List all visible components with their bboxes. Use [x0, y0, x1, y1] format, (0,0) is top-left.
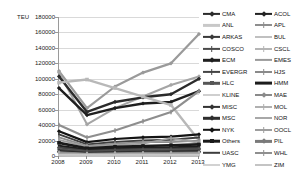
legend-item-mae[interactable]: MAE	[255, 89, 305, 101]
legend-swatch-icon	[203, 160, 220, 169]
legend-label: HJS	[274, 68, 285, 76]
legend-label: ARKAS	[222, 33, 242, 41]
series-marker	[58, 123, 59, 128]
x-tick-label: 2008	[51, 159, 64, 165]
x-tick-label: 2009	[79, 159, 92, 165]
legend-item-bul[interactable]: BUL	[255, 31, 305, 43]
legend-item-hmm[interactable]: HMM	[255, 78, 305, 90]
legend-item-ymg[interactable]: YMG	[203, 159, 253, 171]
legend-item-zim[interactable]: ZIM	[255, 159, 305, 171]
legend-item-cscl[interactable]: CSCL	[255, 43, 305, 55]
legend-label: MISC	[222, 103, 237, 111]
legend-swatch-icon	[203, 148, 220, 157]
legend-item-uasc[interactable]: UASC	[203, 147, 253, 159]
legend-swatch-icon	[203, 21, 220, 30]
x-tick-mark	[114, 156, 115, 159]
legend-item-pil[interactable]: PIL	[255, 136, 305, 148]
legend-item-mol[interactable]: MOL	[255, 101, 305, 113]
legend-label: MOL	[274, 103, 287, 111]
legend-label: CMA	[222, 10, 235, 18]
series-line	[59, 34, 199, 108]
legend-label: ECM	[222, 56, 235, 64]
legend-item-arkas[interactable]: ARKAS	[203, 31, 253, 43]
legend-label: MAE	[274, 91, 287, 99]
legend-item-apl[interactable]: APL	[255, 20, 305, 32]
y-tick-label: 120000	[35, 60, 55, 66]
legend-swatch-icon	[255, 21, 272, 30]
y-tick-label: 140000	[35, 45, 55, 51]
legend-item-ecm[interactable]: ECM	[203, 54, 253, 66]
legend-item-emes[interactable]: EMES	[255, 54, 305, 66]
legend-item-cma[interactable]: CMA	[203, 8, 253, 20]
legend-label: EMES	[274, 56, 291, 64]
legend-item-acol[interactable]: ACOL	[255, 8, 305, 20]
legend-label: ANL	[222, 21, 234, 29]
series-lines	[59, 17, 199, 156]
x-tick-label: 2010	[107, 159, 120, 165]
series-marker	[198, 89, 199, 94]
legend-item-anl[interactable]: ANL	[203, 20, 253, 32]
legend-item-misc[interactable]: MISC	[203, 101, 253, 113]
legend-label: APL	[274, 21, 285, 29]
legend-label: NOR	[274, 114, 287, 122]
legend-label: YMG	[222, 161, 236, 169]
y-tick-label: 160000	[35, 29, 55, 35]
legend-swatch-icon	[255, 44, 272, 53]
x-tick-label: 2012	[163, 159, 176, 165]
legend-label: ZIM	[274, 161, 284, 169]
legend-label: OOCL	[274, 126, 291, 134]
legend-swatch-icon	[255, 79, 272, 88]
x-tick-mark	[198, 156, 199, 159]
legend-label: COSCO	[222, 45, 244, 53]
chart-root: TEU 180000160000140000120000100000800006…	[0, 0, 308, 179]
x-tick-mark	[170, 156, 171, 159]
series-marker	[141, 101, 145, 105]
legend-item-cosco[interactable]: COSCO	[203, 43, 253, 55]
legend-label: UASC	[222, 149, 239, 157]
x-tick-label: 2011	[136, 159, 149, 165]
series-marker	[57, 141, 61, 145]
x-tick-mark	[58, 156, 59, 159]
legend-item-nor[interactable]: NOR	[255, 112, 305, 124]
y-tick-label: 100000	[35, 76, 55, 82]
series-marker	[142, 119, 143, 124]
legend-item-msc[interactable]: MSC	[203, 112, 253, 124]
series-marker	[169, 103, 173, 107]
series-marker	[85, 78, 89, 82]
legend-swatch-icon	[255, 114, 272, 123]
legend-swatch-icon	[203, 56, 220, 65]
legend-label: HLC	[222, 79, 234, 87]
legend-column-1: CMAANLARKASCOSCOECMEVERGRHLCKLINEMISCMSC…	[203, 8, 253, 170]
legend-item-whl[interactable]: WHL	[255, 147, 305, 159]
legend-label: ACOL	[274, 10, 290, 18]
legend-swatch-icon	[203, 137, 220, 146]
legend-item-others[interactable]: Others	[203, 136, 253, 148]
legend-item-oocl[interactable]: OOCL	[255, 124, 305, 136]
plot-area	[58, 17, 199, 157]
series-marker	[141, 95, 145, 99]
legend-item-hjs[interactable]: HJS	[255, 66, 305, 78]
legend-column-2: ACOLAPLBULCSCLEMESHJSHMMMAEMOLNOROOCLPIL…	[255, 8, 305, 170]
legend-item-evergr[interactable]: EVERGR	[203, 66, 253, 78]
legend-label: PIL	[274, 137, 283, 145]
legend-item-kline[interactable]: KLINE	[203, 89, 253, 101]
series-marker	[57, 81, 61, 85]
legend-swatch-icon	[255, 102, 272, 111]
legend-label: BUL	[274, 33, 286, 41]
legend-swatch-icon	[203, 32, 220, 41]
y-tick-label: 80000	[38, 91, 55, 97]
legend-swatch-icon	[203, 125, 220, 134]
legend-label: WHL	[274, 149, 287, 157]
legend-swatch-icon	[203, 102, 220, 111]
y-tick-label: 40000	[38, 122, 55, 128]
chart-legend: CMAANLARKASCOSCOECMEVERGRHLCKLINEMISCMSC…	[203, 8, 308, 174]
y-tick-label: 180000	[35, 14, 55, 20]
legend-label: HMM	[274, 79, 288, 87]
legend-swatch-icon	[255, 90, 272, 99]
x-tick-mark	[86, 156, 87, 159]
series-marker	[86, 135, 87, 140]
legend-item-nyk[interactable]: NYK	[203, 124, 253, 136]
y-axis-tick-labels: 1800001600001400001200001000008000060000…	[0, 17, 55, 156]
series-marker	[114, 128, 115, 133]
legend-item-hlc[interactable]: HLC	[203, 78, 253, 90]
